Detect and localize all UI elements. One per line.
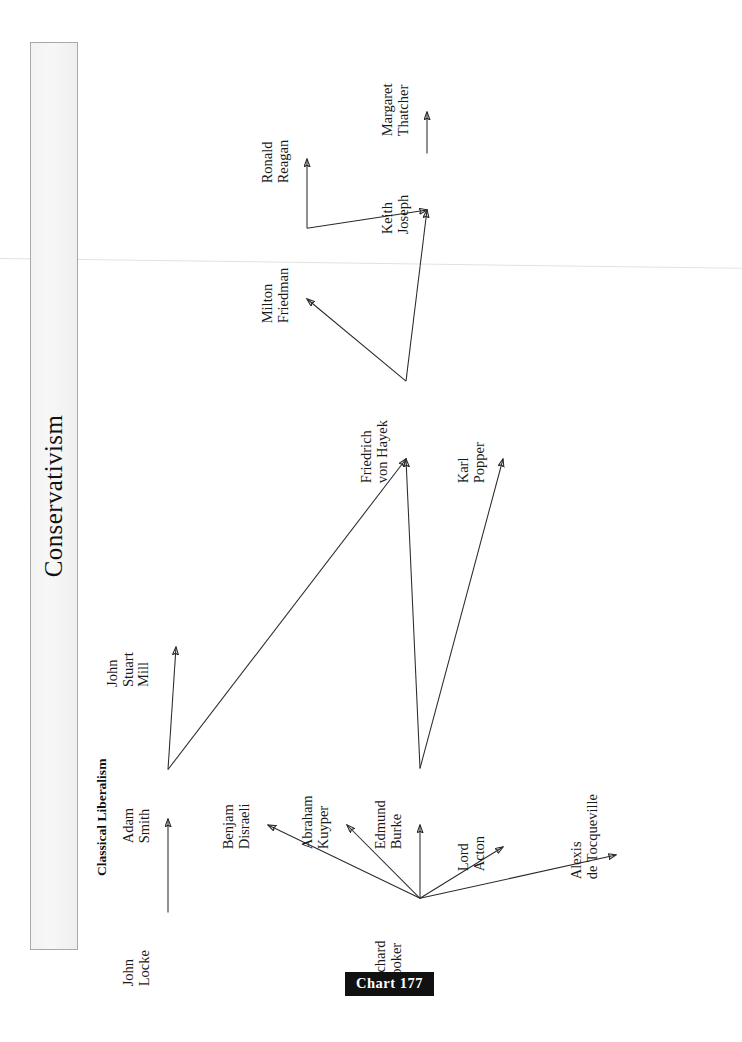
node-label-line: von Hayek [374, 420, 390, 483]
node-label-line: Keith [380, 195, 396, 234]
node-label-line: Acton [471, 836, 487, 871]
edge-adam-smith-to-friedrich-von-hayek [168, 459, 406, 770]
node-label-line: de Tocqueville [584, 794, 600, 879]
node-label-line: Abraham [300, 795, 316, 849]
node-label-line: Mill [136, 652, 152, 687]
edge-edmund-burke-to-karl-popper [420, 459, 503, 768]
node-label-line: Smith [136, 808, 152, 843]
node-keith-joseph: KeithJoseph [380, 195, 411, 234]
node-label-line: Locke [136, 950, 152, 986]
section-label-classical-liberalism: Classical Liberalism [94, 759, 110, 876]
node-margaret-thatcher: MargaretThatcher [380, 83, 411, 136]
node-abraham-kuyper: AbrahamKuyper [300, 795, 331, 849]
node-label-line: Ronald [260, 140, 276, 183]
edge-edmund-burke-to-friedrich-von-hayek [406, 459, 420, 768]
node-label-line: Adam [121, 808, 137, 843]
node-edmund-burke: EdmundBurke [373, 800, 404, 849]
page-title: Conservativism [40, 415, 68, 578]
node-adam-smith: AdamSmith [121, 808, 152, 843]
node-friedrich-von-hayek: Friedrichvon Hayek [359, 420, 390, 483]
node-label-line: Stuart [121, 652, 137, 687]
node-label-line: Friedman [275, 268, 291, 324]
scan-artifact-line [0, 258, 742, 269]
node-label-line: Margaret [380, 83, 396, 136]
node-label-line: Edmund [373, 800, 389, 849]
node-benjamin-disraeli: BenjamDisraeli [221, 803, 252, 849]
node-label-line: Disraeli [236, 803, 252, 849]
node-john-locke: JohnLocke [121, 950, 152, 986]
node-label-line: Kuyper [315, 795, 331, 849]
node-alexis-de-tocqueville: Alexisde Tocqueville [569, 794, 600, 879]
chart-number-badge: Chart 177 [345, 972, 434, 996]
edge-layer [0, 0, 742, 1042]
chart-page: Conservativism Classical Liberalism John… [0, 0, 742, 1042]
node-lord-acton: LordActon [456, 836, 487, 871]
node-label-line: Karl [456, 442, 472, 483]
node-label-line: Lord [456, 836, 472, 871]
node-john-stuart-mill: JohnStuartMill [105, 652, 152, 687]
edge-adam-smith-to-john-stuart-mill [168, 647, 176, 770]
chart-title-bar: Conservativism [30, 42, 78, 950]
node-label-line: Alexis [569, 794, 585, 879]
node-label-line: Friedrich [359, 420, 375, 483]
edge-friedrich-von-hayek-to-milton-friedman [307, 299, 406, 381]
node-karl-popper: KarlPopper [456, 442, 487, 483]
node-label-line: Thatcher [395, 83, 411, 136]
node-label-line: Popper [471, 442, 487, 483]
node-label-line: Milton [260, 268, 276, 324]
node-ronald-reagan: RonaldReagan [260, 140, 291, 183]
node-label-line: John [105, 652, 121, 687]
edge-friedrich-von-hayek-to-keith-joseph [406, 210, 427, 381]
node-label-line: John [121, 950, 137, 986]
node-label-line: Joseph [395, 195, 411, 234]
node-milton-friedman: MiltonFriedman [260, 268, 291, 324]
node-label-line: Reagan [275, 140, 291, 183]
node-label-line: Benjam [221, 803, 237, 849]
node-label-line: Burke [388, 800, 404, 849]
